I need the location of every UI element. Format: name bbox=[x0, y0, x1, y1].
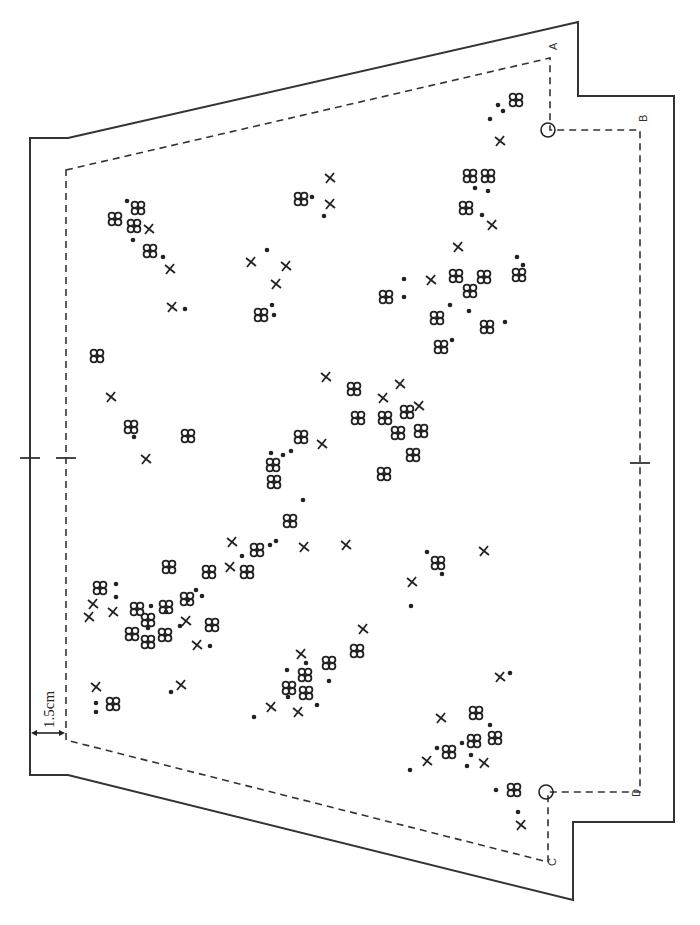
clover-icon bbox=[435, 341, 448, 354]
clover-icon bbox=[379, 412, 392, 425]
clover-icon bbox=[203, 566, 216, 579]
corner-label-d: D bbox=[630, 789, 642, 797]
dot-icon bbox=[315, 703, 320, 708]
dot-icon bbox=[494, 788, 499, 793]
clover-icon bbox=[378, 468, 391, 481]
cross-icon bbox=[225, 562, 235, 572]
dot-icon bbox=[480, 213, 485, 218]
cross-icon bbox=[358, 624, 368, 634]
clover-icon bbox=[481, 321, 494, 334]
outer-boundary bbox=[30, 22, 674, 900]
clover-icon bbox=[94, 582, 107, 595]
clover-icon bbox=[268, 476, 281, 489]
dot-icon bbox=[467, 309, 472, 314]
dot-icon bbox=[146, 626, 151, 631]
survey-pin-icon bbox=[541, 123, 555, 137]
corner-label-c: C bbox=[546, 858, 558, 866]
cross-icon bbox=[479, 546, 489, 556]
cross-icon bbox=[325, 173, 335, 183]
cross-icon bbox=[141, 454, 151, 464]
cross-icon bbox=[422, 756, 432, 766]
dot-icon bbox=[521, 263, 526, 268]
cross-icon bbox=[227, 537, 237, 547]
clover-icon bbox=[513, 269, 526, 282]
dot-icon bbox=[272, 313, 277, 318]
clover-icon bbox=[284, 515, 297, 528]
clover-icon bbox=[450, 270, 463, 283]
cross-icon bbox=[453, 242, 463, 252]
clover-icon bbox=[478, 271, 491, 284]
cross-icon bbox=[299, 542, 309, 552]
clover-icon bbox=[125, 421, 138, 434]
dot-icon bbox=[164, 610, 169, 615]
dot-icon bbox=[183, 307, 188, 312]
cross-icon bbox=[271, 279, 281, 289]
dot-icon bbox=[125, 199, 130, 204]
dot-icon bbox=[114, 595, 119, 600]
dot-icon bbox=[508, 671, 513, 676]
clover-icon bbox=[255, 309, 268, 322]
clover-icon bbox=[251, 544, 264, 557]
clover-icon bbox=[283, 682, 296, 695]
clover-icon bbox=[163, 561, 176, 574]
dot-icon bbox=[274, 539, 279, 544]
clover-icon bbox=[431, 312, 444, 325]
cross-icon bbox=[378, 393, 388, 403]
clover-icon bbox=[126, 628, 139, 641]
clover-icon bbox=[267, 459, 280, 472]
dot-icon bbox=[301, 498, 306, 503]
cross-icon bbox=[144, 224, 154, 234]
cross-icon bbox=[108, 607, 118, 617]
dot-icon bbox=[515, 255, 520, 260]
clover-icon bbox=[144, 245, 157, 258]
clover-icon bbox=[432, 557, 445, 570]
dot-icon bbox=[440, 572, 445, 577]
dot-icon bbox=[132, 435, 137, 440]
cross-icon bbox=[84, 612, 94, 622]
cross-icon bbox=[293, 707, 303, 717]
clover-icon bbox=[131, 603, 144, 616]
dot-icon bbox=[186, 598, 191, 603]
dot-icon bbox=[94, 701, 99, 706]
clover-icon bbox=[464, 170, 477, 183]
clover-icon bbox=[206, 619, 219, 632]
dot-icon bbox=[488, 117, 493, 122]
cross-icon bbox=[479, 758, 489, 768]
center-ticks bbox=[20, 458, 650, 463]
dot-icon bbox=[503, 320, 508, 325]
dot-icon bbox=[496, 103, 501, 108]
clover-icon bbox=[352, 412, 365, 425]
cross-icon bbox=[436, 713, 446, 723]
clover-icon bbox=[241, 566, 254, 579]
dot-icon bbox=[200, 594, 205, 599]
dot-icon bbox=[178, 624, 183, 629]
dot-icon bbox=[501, 109, 506, 114]
clover-icon bbox=[401, 406, 414, 419]
cross-icon bbox=[321, 372, 331, 382]
cross-icon bbox=[487, 220, 497, 230]
clover-icon bbox=[159, 629, 172, 642]
clover-icon bbox=[299, 669, 312, 682]
dot-icon bbox=[402, 295, 407, 300]
clover-icon bbox=[407, 449, 420, 462]
arrowhead-right-icon bbox=[59, 730, 65, 736]
cross-icon bbox=[414, 401, 424, 411]
dot-icon bbox=[486, 189, 491, 194]
dot-icon bbox=[473, 186, 478, 191]
clover-icon bbox=[182, 430, 195, 443]
dot-icon bbox=[161, 255, 166, 260]
inner-dashed-boundary bbox=[66, 58, 640, 862]
dot-icon bbox=[304, 661, 309, 666]
dot-icon bbox=[265, 248, 270, 253]
cross-icon bbox=[165, 264, 175, 274]
clover-icon bbox=[142, 614, 155, 627]
clover-icon bbox=[323, 657, 336, 670]
dot-icon bbox=[516, 810, 521, 815]
clover-icon bbox=[128, 220, 141, 233]
cross-icon bbox=[317, 439, 327, 449]
dot-icon bbox=[286, 695, 291, 700]
dot-icon bbox=[425, 550, 430, 555]
clover-icon bbox=[300, 687, 313, 700]
clover-icon bbox=[107, 698, 120, 711]
corner-labels: ABCD bbox=[546, 42, 649, 866]
